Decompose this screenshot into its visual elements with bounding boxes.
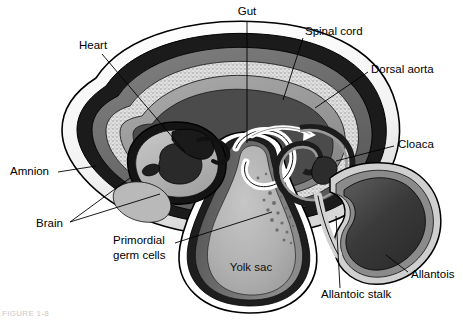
label-primordial-germ-cells-line2: germ cells <box>113 249 166 261</box>
label-heart: Heart <box>79 39 108 51</box>
label-brain: Brain <box>36 217 63 229</box>
yolk-sac-label: Yolk sac <box>230 261 273 273</box>
label-amnion: Amnion <box>10 165 49 177</box>
label-primordial-germ-cells-line1: Primordial <box>113 234 165 246</box>
embryo-diagram: Yolk sac <box>0 0 463 322</box>
label-gut: Gut <box>238 5 257 17</box>
figure-caption: FIGURE 1-8 <box>2 309 142 321</box>
label-allantoic-stalk: Allantoic stalk <box>321 288 392 300</box>
label-spinal-cord: Spinal cord <box>305 25 363 37</box>
label-allantois: Allantois <box>411 268 455 280</box>
label-dorsal-aorta: Dorsal aorta <box>371 63 434 75</box>
label-cloaca: Cloaca <box>398 138 434 150</box>
